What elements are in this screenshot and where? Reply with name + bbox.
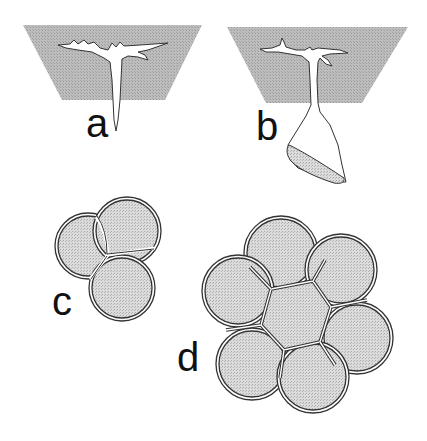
panel-b <box>227 27 408 183</box>
cell-d-bottom-inner <box>280 344 346 410</box>
panel-label-a: a <box>86 103 108 143</box>
panel-label-b: b <box>256 106 278 146</box>
panel-label-d: d <box>177 337 199 377</box>
panel-label-c: c <box>52 281 72 321</box>
diagram-canvas <box>0 0 427 441</box>
panel-a <box>23 25 202 131</box>
cell-d-left-inner <box>205 258 271 324</box>
cell-c-bottom-inner <box>92 258 152 318</box>
panel-d <box>202 216 393 413</box>
